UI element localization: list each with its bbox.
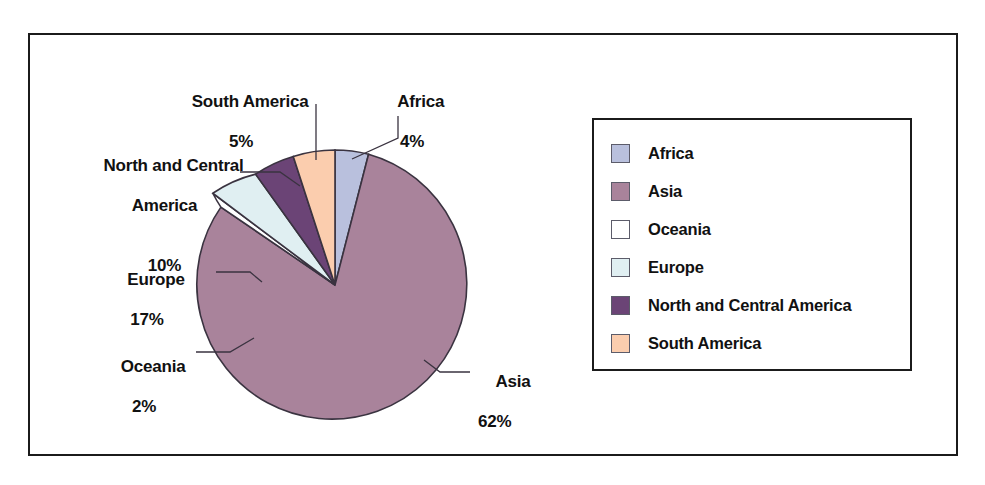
legend-label-asia: Asia <box>648 182 682 201</box>
legend-swatch-asia <box>611 182 630 201</box>
pie-label-africa-name: Africa <box>397 92 444 111</box>
legend-label-north-and-central-america: North and Central America <box>648 296 851 315</box>
pie-label-oceania: Oceania 2% <box>66 337 222 457</box>
legend-swatch-north-and-central-america <box>611 296 630 315</box>
legend-swatch-south-america <box>611 334 630 353</box>
pie-label-south-america-name: South America <box>192 92 309 111</box>
legend-label-europe: Europe <box>648 258 704 277</box>
pie-label-oceania-name: Oceania <box>121 357 186 376</box>
pie-label-africa: Africa 4% <box>360 72 464 192</box>
pie-label-asia: Asia 62% <box>478 352 598 472</box>
legend-label-africa: Africa <box>648 144 694 163</box>
legend-label-south-america: South America <box>648 334 761 353</box>
pie-label-asia-name: Asia <box>495 372 530 391</box>
pie-label-north-and-central-america-name-line1: North and Central <box>103 156 243 175</box>
legend-item-africa[interactable]: Africa <box>594 134 910 172</box>
pie-label-europe-value: 17% <box>72 310 222 330</box>
legend-swatch-europe <box>611 258 630 277</box>
legend-swatch-oceania <box>611 220 630 239</box>
pie-label-oceania-value: 2% <box>66 397 222 417</box>
legend-item-asia[interactable]: Asia <box>594 172 910 210</box>
legend-label-oceania: Oceania <box>648 220 711 239</box>
legend-item-south-america[interactable]: South America <box>594 324 910 362</box>
pie-label-africa-value: 4% <box>360 132 464 152</box>
legend-item-north-and-central-america[interactable]: North and Central America <box>594 286 910 324</box>
pie-chart-figure: South America 5% Africa 4% North and Cen… <box>0 0 985 485</box>
pie-label-north-and-central-america-name-line2: America <box>62 196 267 216</box>
legend-item-europe[interactable]: Europe <box>594 248 910 286</box>
pie-label-asia-value: 62% <box>478 412 598 432</box>
chart-legend: Africa Asia Oceania Europe North and Cen… <box>592 118 912 371</box>
legend-swatch-africa <box>611 144 630 163</box>
pie-label-europe-name: Europe <box>127 270 184 289</box>
legend-item-oceania[interactable]: Oceania <box>594 210 910 248</box>
